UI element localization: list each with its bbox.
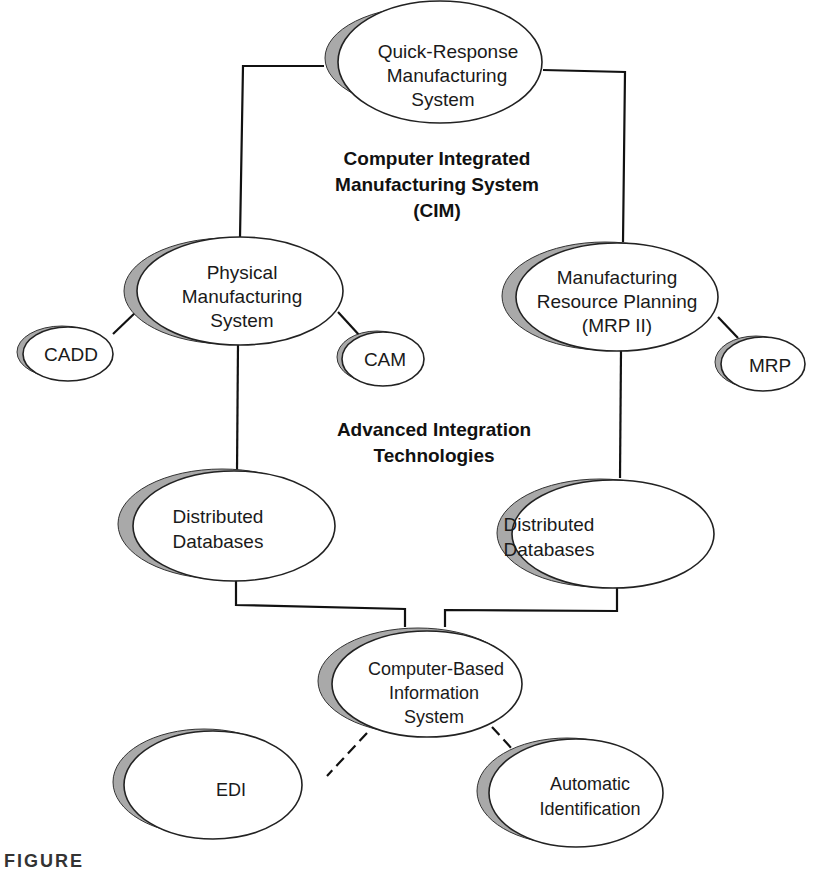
edge-cbis-edi (327, 733, 367, 776)
node-label-line: System (210, 310, 273, 331)
node-automatic-identification: Automatic Identification (477, 738, 663, 847)
group-label-line: Advanced Integration (337, 419, 531, 440)
node-label-line: (MRP II) (582, 315, 652, 336)
node-label-line: EDI (216, 780, 246, 800)
node-label-line: Quick-Response (378, 41, 518, 62)
node-label-line: Automatic (550, 774, 630, 794)
edge-qrm-mrp2 (543, 70, 625, 242)
node-label-line: System (404, 707, 464, 727)
node-label-line: Physical (207, 262, 278, 283)
node-label-line: Computer-Based (368, 659, 504, 679)
node-cam: CAM (337, 331, 424, 386)
node-label-line: MRP (749, 355, 791, 376)
node-cadd: CADD (17, 326, 113, 381)
group-label-line: (CIM) (413, 200, 460, 221)
node-label-line: Manufacturing (557, 267, 677, 288)
edge-pms-cadd (113, 311, 137, 334)
node-distributed-databases-left: Distributed Databases (118, 469, 335, 581)
group-label-line: Technologies (373, 445, 494, 466)
node-oval (124, 731, 302, 839)
node-label-line: Manufacturing (387, 65, 507, 86)
edge-mrp2-mrp (718, 317, 738, 338)
node-label-line: Manufacturing (182, 286, 302, 307)
node-mrp2: Manufacturing Resource Planning (MRP II) (502, 242, 718, 351)
node-label-line: CADD (44, 344, 98, 365)
node-mrp: MRP (715, 336, 805, 391)
node-distributed-databases-right: Distributed Databases (497, 479, 714, 588)
edge-dbright-cbis (445, 587, 617, 627)
node-physical-manufacturing: Physical Manufacturing System (124, 237, 343, 345)
group-label-line: Computer Integrated (344, 148, 531, 169)
edge-qrm-pms (240, 66, 324, 238)
group-label-line: Manufacturing System (335, 174, 539, 195)
figure-caption-partial: FIGURE (4, 851, 84, 871)
group-label-ait: Advanced Integration Technologies (337, 419, 531, 466)
node-edi: EDI (113, 729, 302, 839)
node-label-line: Databases (504, 539, 595, 560)
node-qrm: Quick-Response Manufacturing System (325, 1, 542, 123)
edge-mrp2-dbright (620, 350, 621, 478)
node-label-line: Distributed (173, 506, 264, 527)
node-label-line: Resource Planning (537, 291, 698, 312)
node-label-line: CAM (364, 349, 406, 370)
edge-pms-dbleft (237, 343, 238, 472)
node-label-line: Databases (173, 531, 264, 552)
node-label-line: Identification (539, 799, 640, 819)
edge-dbleft-cbis (236, 580, 405, 627)
node-cbis: Computer-Based Information System (318, 628, 522, 737)
node-label-line: System (411, 89, 474, 110)
edge-pms-cam (338, 312, 360, 336)
node-label-line: Distributed (504, 514, 595, 535)
node-label-line: Information (389, 683, 479, 703)
group-label-cim: Computer Integrated Manufacturing System… (335, 148, 539, 221)
